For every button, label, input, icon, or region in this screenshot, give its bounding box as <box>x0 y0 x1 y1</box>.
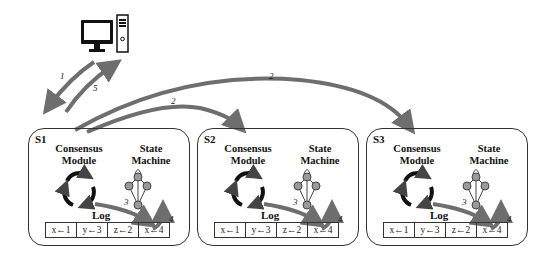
server-s1: S1 ConsensusModule StateMachine 3 4 Log … <box>28 128 190 246</box>
log-entry: x←1 <box>384 223 415 237</box>
arrow-replicate-s3 <box>75 79 408 130</box>
server-s2: S2 ConsensusModule StateMachine 3 4 Log … <box>197 128 359 246</box>
log-table: x←1 y←3 z←2 x←4 <box>383 222 508 238</box>
log-entry: x←4 <box>308 223 338 237</box>
log-label: Log <box>261 209 279 221</box>
cycle-arrows-icon <box>64 173 94 205</box>
step-label-3: 3 <box>462 197 467 207</box>
arrow-response-5 <box>66 66 112 112</box>
log-entry: x←4 <box>139 223 169 237</box>
desktop-computer-icon <box>81 15 128 52</box>
log-table: x←1 y←3 z←2 x←4 <box>45 222 170 238</box>
edge-label-1: 1 <box>60 71 65 81</box>
edge-label-5: 5 <box>93 83 98 93</box>
step-label-3: 3 <box>293 197 298 207</box>
log-entry: x←1 <box>215 223 246 237</box>
log-entry: z←2 <box>446 223 477 237</box>
log-entry: y←3 <box>415 223 446 237</box>
log-entry: z←2 <box>108 223 139 237</box>
log-entry: x←1 <box>46 223 77 237</box>
log-entry: y←3 <box>77 223 108 237</box>
cycle-arrows-icon <box>233 173 263 205</box>
edge-label-2-s3: 2 <box>269 71 274 81</box>
step-label-3: 3 <box>124 197 129 207</box>
log-label: Log <box>92 209 110 221</box>
log-entry: y←3 <box>246 223 277 237</box>
server-s3: S3 ConsensusModule StateMachine 3 4 Log … <box>366 128 528 246</box>
log-entry: x←4 <box>477 223 507 237</box>
edge-label-2-s2: 2 <box>171 96 176 106</box>
log-label: Log <box>430 209 448 221</box>
cycle-arrows-icon <box>402 173 432 205</box>
log-entry: z←2 <box>277 223 308 237</box>
log-table: x←1 y←3 z←2 x←4 <box>214 222 339 238</box>
